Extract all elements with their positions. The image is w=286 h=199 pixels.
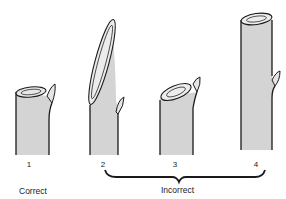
stem-3 [159, 77, 200, 155]
caption-incorrect: Incorrect [161, 185, 194, 195]
stem-4 [240, 11, 280, 150]
stem-label-4: 4 [251, 160, 261, 169]
stem-label-2: 2 [98, 160, 108, 169]
stem-label-3: 3 [170, 160, 180, 169]
incorrect-brace [105, 170, 265, 182]
stem-label-1: 1 [24, 160, 34, 169]
pruning-diagram [0, 0, 286, 199]
stem-2 [84, 18, 124, 155]
caption-correct: Correct [19, 186, 47, 196]
stem-1 [16, 84, 56, 155]
